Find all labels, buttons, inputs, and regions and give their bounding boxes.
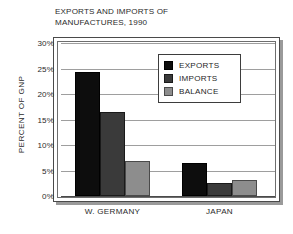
y-tick-label: 10% — [24, 141, 54, 150]
y-tick-label: 5% — [24, 166, 54, 175]
bar-w-germany-balance — [125, 161, 150, 196]
y-tick-label: 30% — [24, 39, 54, 48]
bar-w-germany-imports — [100, 112, 125, 196]
x-tick-label: W. GERMANY — [85, 207, 141, 216]
bar-japan-exports — [182, 163, 207, 196]
x-axis-tick-labels: W. GERMANYJAPAN — [61, 207, 275, 223]
legend-label-balance: BALANCE — [179, 87, 219, 96]
legend-label-exports: EXPORTS — [179, 61, 219, 70]
legend-swatch-balance-icon — [164, 87, 173, 96]
gridline — [61, 196, 275, 197]
chart-title: EXPORTS AND IMPORTS OF MANUFACTURES, 199… — [55, 7, 265, 28]
y-tick-label: 0% — [24, 192, 54, 201]
legend-item[interactable]: EXPORTS — [164, 59, 235, 72]
bar-w-germany-exports — [75, 72, 100, 196]
bar-japan-imports — [207, 183, 232, 196]
legend-item[interactable]: BALANCE — [164, 85, 235, 98]
chart-legend: EXPORTS IMPORTS BALANCE — [158, 54, 241, 103]
legend-swatch-exports-icon — [164, 61, 173, 70]
y-axis-tick-labels: 0%5%10%15%20%25%30% — [18, 43, 54, 196]
y-tick-label: 15% — [24, 115, 54, 124]
y-tick-label: 20% — [24, 90, 54, 99]
y-tick-label: 25% — [24, 64, 54, 73]
legend-swatch-imports-icon — [164, 74, 173, 83]
legend-label-imports: IMPORTS — [179, 74, 217, 83]
bar-japan-balance — [232, 180, 257, 196]
legend-item[interactable]: IMPORTS — [164, 72, 235, 85]
gridline — [61, 43, 275, 44]
chart-figure: EXPORTS AND IMPORTS OF MANUFACTURES, 199… — [0, 0, 293, 234]
x-tick-label: JAPAN — [206, 207, 233, 216]
